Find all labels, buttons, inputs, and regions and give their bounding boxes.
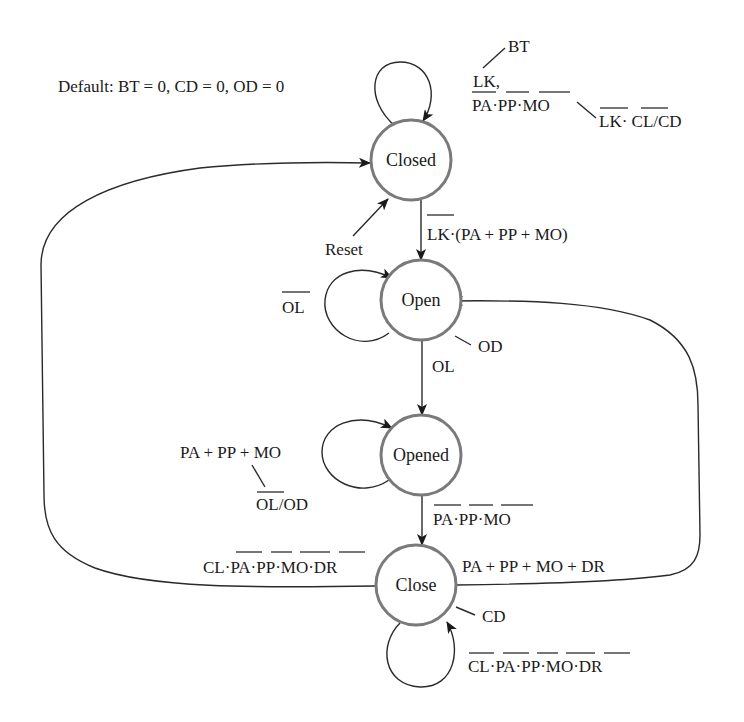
reset-arrow <box>353 199 388 236</box>
closed-alt-output: LK· CL/CD <box>599 112 682 131</box>
edge-close-to-closed <box>41 163 376 587</box>
close-output-cd: CD <box>482 607 506 626</box>
opened-loop-output: OL/OD <box>256 495 308 514</box>
close-to-open-cond: PA + PP + MO + DR <box>462 557 605 576</box>
close-to-closed-cond: CL·PA·PP·MO·DR <box>203 558 338 577</box>
cd-leader-line <box>456 607 475 615</box>
closed-loop-cond-line2: PA·PP·MO <box>472 96 550 115</box>
ol-od-leader-line <box>252 465 265 487</box>
state-close-label: Close <box>395 575 436 595</box>
open-loop-cond: OL <box>282 298 305 317</box>
default-note: Default: BT = 0, CD = 0, OD = 0 <box>58 77 284 96</box>
bt-leader-line <box>483 48 505 68</box>
opened-to-close-cond: PA·PP·MO <box>433 510 511 529</box>
state-closed-label: Closed <box>386 150 436 170</box>
state-opened-label: Opened <box>393 445 449 465</box>
state-closed: Closed <box>371 120 451 200</box>
closed-to-open-cond: LK·(PA + PP + MO) <box>427 225 568 244</box>
open-output-od: OD <box>478 337 503 356</box>
state-open-label: Open <box>402 290 441 310</box>
od-leader-line <box>455 336 471 345</box>
closed-loop-cond-line1: LK, <box>473 72 500 91</box>
state-open: Open <box>381 260 461 340</box>
opened-loop-cond: PA + PP + MO <box>180 443 281 462</box>
state-opened: Opened <box>381 415 461 495</box>
edge-close-self-loop <box>387 622 455 687</box>
reset-label: Reset <box>325 240 363 259</box>
state-diagram: Default: BT = 0, CD = 0, OD = 0 BT LK, P… <box>0 0 744 722</box>
closed-output-bt: BT <box>508 37 530 56</box>
open-to-opened-cond: OL <box>432 357 455 376</box>
close-loop-cond: CL·PA·PP·MO·DR <box>468 657 603 676</box>
lkcl-leader-line <box>577 102 596 118</box>
state-close: Close <box>376 545 456 625</box>
edge-closed-self-loop <box>375 62 431 126</box>
